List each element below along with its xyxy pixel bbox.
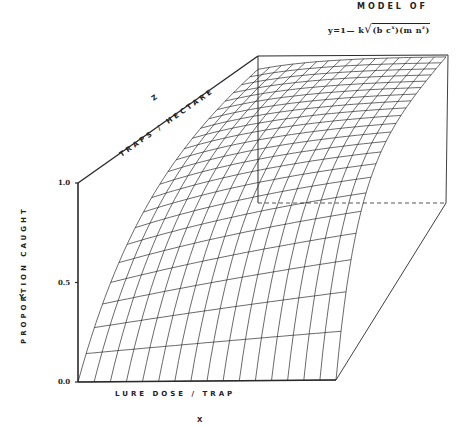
chart-title: MODEL OF xyxy=(357,2,428,11)
x-axis-letter: X xyxy=(197,416,205,424)
equation-radicand: (b cx)(m nz) xyxy=(372,23,429,35)
equation-prefix: y=1— k xyxy=(328,25,364,35)
radicand-part-3: ) xyxy=(425,25,429,35)
mesh-line xyxy=(336,57,446,380)
mesh-line xyxy=(258,55,448,56)
mesh-line xyxy=(234,75,432,93)
radicand-part-2: )(m n xyxy=(395,25,422,35)
mesh-line xyxy=(446,55,448,203)
mesh-line xyxy=(152,152,381,198)
axes-frame xyxy=(75,55,448,382)
mesh-line xyxy=(304,57,423,380)
mesh-line xyxy=(255,58,387,381)
y-axis-title: PROPORTION CAUGHT xyxy=(20,206,28,344)
chart-equation: y=1— k√(b cx)(m nz) xyxy=(328,22,430,36)
mesh-line xyxy=(103,260,352,304)
y-tick-1: 0.5 xyxy=(58,278,70,287)
mesh-line xyxy=(288,58,411,381)
mesh-line xyxy=(225,81,426,101)
mesh-line xyxy=(160,141,386,184)
mesh-line xyxy=(250,63,441,77)
y-tick-2: 1.0 xyxy=(58,178,70,187)
mesh-line xyxy=(242,69,436,85)
mesh-line xyxy=(119,211,361,262)
mesh-line xyxy=(168,132,391,172)
x-axis-title: LURE DOSE / TRAP xyxy=(115,390,235,398)
surface-plot xyxy=(0,0,469,427)
radicand-part-1: (b c xyxy=(372,25,391,35)
surface-mesh xyxy=(78,57,446,382)
y-tick-0: 0.0 xyxy=(58,377,70,386)
mesh-line xyxy=(78,380,336,382)
mesh-line xyxy=(336,203,446,380)
mesh-line xyxy=(144,164,377,212)
